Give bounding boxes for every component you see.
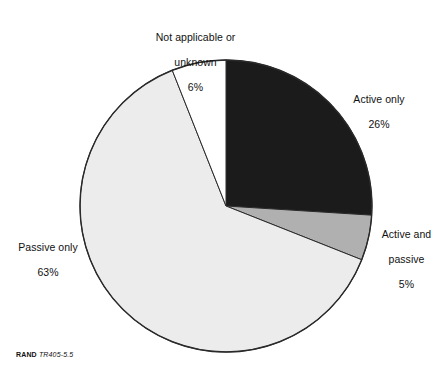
figure-source-id: TR405-5.5	[39, 351, 73, 358]
figure-source-note: RAND TR405-5.5	[16, 351, 73, 358]
pie-label-not-applicable-value: 6%	[118, 81, 273, 94]
pie-label-passive-only-value: 63%	[4, 266, 92, 279]
pie-label-active-and-passive: Active and passive 5%	[369, 215, 444, 303]
pie-label-not-applicable-line2: unknown	[118, 56, 273, 69]
pie-label-passive-only: Passive only 63%	[4, 228, 92, 291]
pie-chart-figure: Not applicable or unknown 6% Active only…	[0, 0, 444, 379]
pie-label-active-only-value: 26%	[327, 118, 431, 131]
pie-label-active-and-passive-line2: passive	[369, 253, 444, 266]
pie-label-not-applicable-line1: Not applicable or	[118, 31, 273, 44]
pie-label-passive-only-line1: Passive only	[4, 241, 92, 254]
figure-source-brand: RAND	[16, 351, 37, 358]
pie-label-active-and-passive-line1: Active and	[369, 228, 444, 241]
pie-label-not-applicable-or-unknown: Not applicable or unknown 6%	[118, 18, 273, 106]
pie-label-active-only: Active only 26%	[327, 80, 431, 143]
pie-label-active-and-passive-value: 5%	[369, 278, 444, 291]
pie-label-active-only-line1: Active only	[327, 93, 431, 106]
